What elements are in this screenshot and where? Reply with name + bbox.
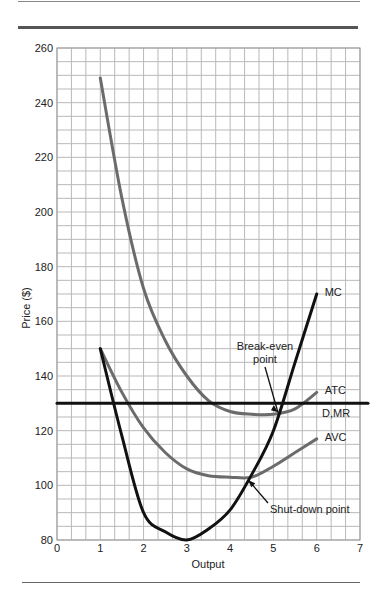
break-even-label: Break-even [237,340,293,352]
x-tick-label: 0 [54,542,60,554]
bottom-rule [22,582,360,583]
y-tick-label: 160 [35,315,53,327]
y-tick-label: 200 [35,206,53,218]
y-tick-label: 100 [35,479,53,491]
x-axis-ticks: 01234567 [54,542,363,554]
y-axis-ticks: 80100120140160180200220240260 [35,42,53,546]
grid [57,48,360,540]
cost-curves-chart: 80100120140160180200220240260 01234567 A… [0,0,380,593]
y-tick-label: 240 [35,97,53,109]
curve-label-atc: ATC [325,384,346,396]
x-tick-label: 5 [270,542,276,554]
y-tick-label: 260 [35,42,53,54]
curve-label-avc: AVC [325,431,347,443]
curve-atc [100,78,316,415]
x-tick-label: 2 [141,542,147,554]
x-tick-label: 7 [357,542,363,554]
y-tick-label: 180 [35,261,53,273]
x-tick-label: 4 [227,542,233,554]
y-tick-label: 140 [35,370,53,382]
y-tick-label: 220 [35,151,53,163]
x-tick-label: 1 [97,542,103,554]
y-axis-title: Price ($) [20,287,32,329]
x-axis-title: Output [191,558,224,570]
x-tick-label: 6 [314,542,320,554]
curves [57,78,368,540]
y-tick-label: 120 [35,425,53,437]
curve-label-d-mr: D,MR [322,407,350,419]
curve-label-mc: MC [325,286,342,298]
x-tick-label: 3 [184,542,190,554]
y-tick-label: 80 [41,534,53,546]
break-even-label: point [253,353,277,365]
shut-down-label: Shut-down point [270,503,350,515]
